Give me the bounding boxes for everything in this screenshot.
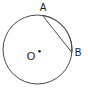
geometry-figure: A B O xyxy=(0,0,88,88)
label-center-o: O xyxy=(27,50,36,62)
label-point-b: B xyxy=(75,47,82,58)
center-point-dot xyxy=(38,50,41,53)
shaded-segment xyxy=(43,15,73,52)
circle-segment-diagram: A B O xyxy=(0,0,88,88)
label-point-a: A xyxy=(40,2,47,13)
